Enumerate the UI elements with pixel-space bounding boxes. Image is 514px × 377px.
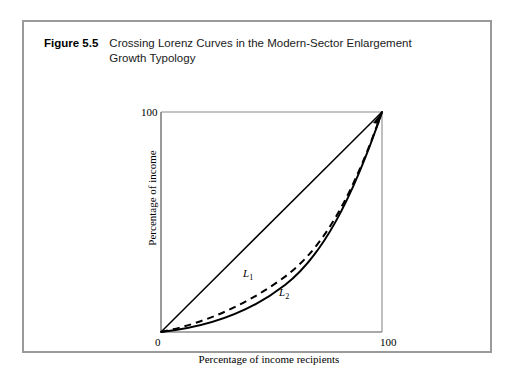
plot-svg: [139, 87, 399, 337]
x-axis-title: Percentage of income recipients: [119, 353, 419, 365]
figure-caption-text: Crossing Lorenz Curves in the Modern-Sec…: [109, 36, 449, 66]
figure-number: Figure 5.5: [44, 36, 98, 51]
figure-caption: Figure 5.5 Crossing Lorenz Curves in the…: [44, 36, 464, 66]
lorenz-curve-plot: 100 0 100 Percentage of income Percentag…: [139, 87, 399, 337]
figure-frame: Figure 5.5 Crossing Lorenz Curves in the…: [22, 20, 492, 353]
x-axis-zero-tick-label: 0: [155, 336, 161, 348]
curve-label-L1-subscript: 1: [249, 273, 253, 282]
line-of-equality: [161, 112, 382, 332]
curve-label-L2-subscript: 2: [285, 292, 289, 301]
y-axis-title: Percentage of income: [146, 113, 158, 283]
curve-label-L2: L2: [279, 286, 289, 301]
x-axis-max-tick-label: 100: [380, 336, 397, 348]
curve-label-L1: L1: [243, 267, 253, 282]
